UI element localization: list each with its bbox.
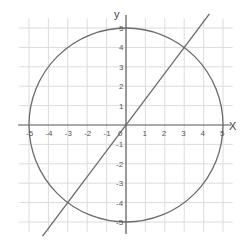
x-tick-label: 1	[142, 129, 147, 138]
y-tick-label: 5	[119, 24, 124, 33]
x-tick-label: 4	[201, 129, 206, 138]
x-tick-label: 2	[162, 129, 167, 138]
x-tick-label: 5	[220, 129, 225, 138]
y-tick-label: -4	[116, 199, 124, 208]
y-tick-label: 1	[119, 102, 124, 111]
y-tick-label: -3	[116, 179, 124, 188]
x-tick-label: -3	[65, 129, 73, 138]
x-tick-label: -4	[45, 129, 53, 138]
x-tick-label: 0	[118, 129, 123, 138]
y-tick-label: -1	[116, 140, 124, 149]
x-tick-label: -5	[26, 129, 34, 138]
y-tick-label: -2	[116, 160, 124, 169]
x-tick-label: -1	[104, 129, 112, 138]
y-axis-label: y	[114, 8, 120, 20]
x-tick-label: -2	[84, 129, 92, 138]
y-tick-label: 2	[119, 82, 124, 91]
y-tick-label: -5	[116, 218, 124, 227]
chart: -5-4-3-2-1012345 54321-1-2-3-4-5 X y	[0, 0, 246, 249]
x-tick-label: 3	[181, 129, 186, 138]
x-axis-label: X	[229, 120, 237, 132]
y-tick-label: 4	[119, 43, 124, 52]
y-tick-label: 3	[119, 63, 124, 72]
